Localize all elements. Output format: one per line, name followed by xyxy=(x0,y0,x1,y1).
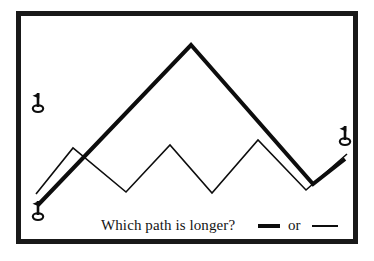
flag-base xyxy=(33,105,43,112)
thick-line-sample xyxy=(258,224,280,228)
flag-marker-upper-left xyxy=(33,93,44,112)
puzzle-figure: Which path is longer? or xyxy=(0,0,374,261)
thick-path xyxy=(38,45,345,205)
caption-or: or xyxy=(288,214,301,236)
flag-banner xyxy=(340,126,347,132)
flag-base xyxy=(340,138,350,145)
thick-path-group xyxy=(38,45,345,205)
flag-banner xyxy=(33,201,40,207)
caption-question: Which path is longer? xyxy=(101,214,251,236)
thin-line-sample xyxy=(312,225,338,227)
flag-base xyxy=(33,213,43,220)
flag-marker-right xyxy=(340,126,351,145)
flag-banner xyxy=(33,93,40,99)
